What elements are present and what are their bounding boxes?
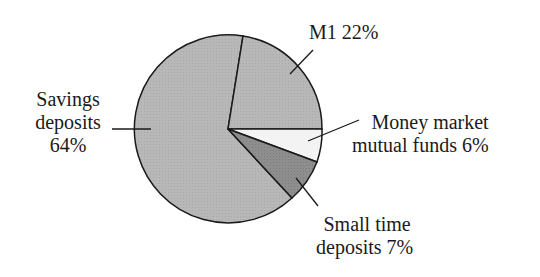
label-savings-line3: 64% [22, 134, 114, 157]
label-savings-line1: Savings [22, 88, 114, 111]
label-st-line2: deposits 7% [316, 236, 413, 259]
label-mm-line2: mutual funds 6% [352, 134, 489, 157]
label-st-line1: Small time [316, 213, 413, 236]
label-savings-line2: deposits [22, 111, 114, 134]
label-m1-line1: M1 22% [309, 21, 378, 44]
label-savings-deposits: Savings deposits 64% [22, 88, 114, 157]
label-mm-line1: Money market [352, 111, 489, 134]
label-m1: M1 22% [309, 21, 378, 44]
label-small-time-deposits: Small time deposits 7% [316, 213, 413, 259]
label-money-market: Money market mutual funds 6% [352, 111, 489, 157]
slice-m1 [228, 36, 322, 129]
